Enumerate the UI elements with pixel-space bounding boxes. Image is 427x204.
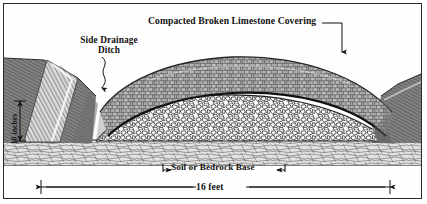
label-side-drainage-ditch: Side Drainage Ditch	[70, 36, 148, 56]
road-cross-section-figure: Compacted Broken Limestone Covering Side…	[0, 0, 427, 204]
diagram-artwork	[0, 0, 427, 204]
label-road-width: 16 feet	[196, 182, 224, 192]
label-covering-depth: 10 inches	[11, 101, 19, 157]
ditch-leader-line	[102, 57, 105, 88]
label-ditch-line2: Ditch	[98, 45, 120, 55]
label-ditch-line1: Side Drainage	[80, 35, 137, 45]
limestone-leader-line	[322, 23, 342, 52]
label-compacted-limestone: Compacted Broken Limestone Covering	[148, 16, 316, 26]
label-soil-or-bedrock-base: Soil or Bedrock Base	[171, 163, 255, 173]
